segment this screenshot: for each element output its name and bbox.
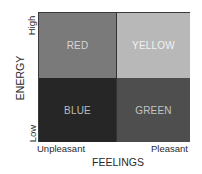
quadrant-red-label: RED	[67, 40, 89, 51]
quadrant-green: GREEN	[116, 78, 190, 142]
y-tick-low: Low	[27, 125, 38, 142]
quadrant-yellow-label: YELLOW	[132, 40, 175, 51]
quadrant-blue-label: BLUE	[64, 105, 91, 116]
quadrant-green-label: GREEN	[135, 105, 172, 116]
mood-meter-grid: RED YELLOW BLUE GREEN	[38, 12, 190, 142]
x-tick-unpleasant: Unpleasant	[37, 143, 85, 154]
x-tick-pleasant: Pleasant	[151, 143, 188, 154]
quadrant-blue: BLUE	[39, 78, 116, 142]
quadrant-red: RED	[39, 13, 116, 78]
quadrant-yellow: YELLOW	[116, 13, 190, 78]
y-tick-high: High	[26, 16, 37, 36]
y-axis-title: ENERGY	[14, 56, 26, 100]
x-axis-title: FEELINGS	[92, 156, 144, 168]
